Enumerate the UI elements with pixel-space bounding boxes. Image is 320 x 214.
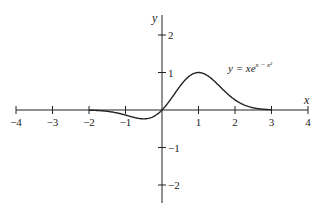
x-tick-label: −1 bbox=[120, 116, 132, 128]
x-tick-label: −2 bbox=[83, 116, 95, 128]
x-tick-label: 1 bbox=[196, 116, 202, 128]
x-tick-label: −4 bbox=[10, 116, 22, 128]
x-tick-label: −3 bbox=[47, 116, 59, 128]
x-axis-label: x bbox=[303, 93, 310, 107]
equation-base: y = xe bbox=[227, 62, 256, 74]
y-tick-label: 2 bbox=[168, 29, 174, 41]
x-tick-label: 4 bbox=[305, 116, 311, 128]
x-tick-label: 2 bbox=[232, 116, 238, 128]
y-tick-label: −2 bbox=[168, 179, 180, 191]
equation-label: y = xex − x² bbox=[227, 61, 273, 74]
x-tick-label: 3 bbox=[269, 116, 275, 128]
equation-exponent: x − x² bbox=[255, 61, 273, 69]
y-tick-label: 1 bbox=[168, 67, 174, 79]
function-plot: −4−3−2−1123421−1−2 x y y = xex − x² bbox=[0, 0, 320, 214]
y-tick-label: −1 bbox=[168, 142, 180, 154]
function-curve bbox=[89, 73, 272, 119]
y-axis-label: y bbox=[151, 11, 158, 25]
